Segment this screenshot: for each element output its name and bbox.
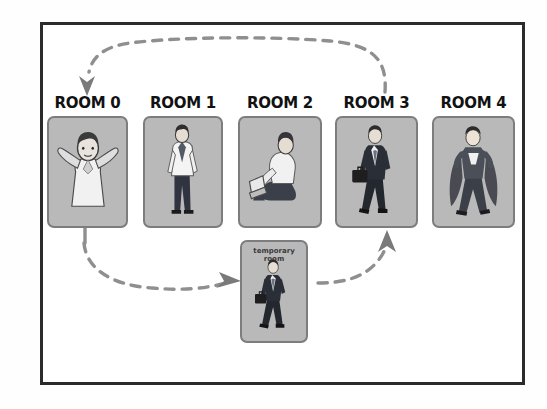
person-walking-with-briefcase-icon <box>337 118 416 226</box>
person-walking-with-briefcase-icon <box>242 256 306 343</box>
temporary-room-label-line1: temporary <box>253 247 294 255</box>
temporary-room[interactable]: temporary room <box>240 240 308 343</box>
room-1[interactable]: ROOM 1 <box>143 94 223 228</box>
room-3[interactable]: ROOM 3 <box>335 94 418 228</box>
room-0-label: ROOM 0 <box>47 94 128 112</box>
room-3-box[interactable] <box>335 116 418 228</box>
person-sitting-with-laptop-icon <box>240 118 320 226</box>
room-4[interactable]: ROOM 4 <box>432 94 515 228</box>
room-4-label: ROOM 4 <box>432 94 515 112</box>
room-1-label: ROOM 1 <box>143 94 223 112</box>
room-0-box[interactable] <box>47 116 128 228</box>
person-standing-white-shirt-icon <box>145 118 221 226</box>
diagram-canvas: .dash { fill:none; stroke:#8f8f8f; strok… <box>0 0 547 409</box>
room-2-box[interactable] <box>238 116 322 228</box>
room-1-box[interactable] <box>143 116 223 228</box>
room-3-label: ROOM 3 <box>335 94 418 112</box>
superhero-with-cape-icon <box>434 118 513 226</box>
room-2[interactable]: ROOM 2 <box>238 94 322 228</box>
room-0[interactable]: ROOM 0 <box>47 94 128 228</box>
temporary-room-box[interactable]: temporary room <box>240 240 308 343</box>
room-4-box[interactable] <box>432 116 515 228</box>
person-hands-behind-head-icon <box>49 118 126 226</box>
room-2-label: ROOM 2 <box>238 94 322 112</box>
